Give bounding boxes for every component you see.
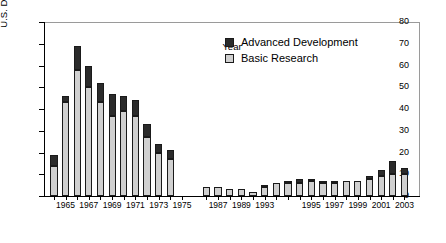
bar [343,181,350,196]
legend: Advanced DevelopmentBasic Research [225,34,358,66]
bar [203,187,210,196]
bar-segment-basic-research [354,181,361,196]
bar [378,170,385,196]
bar-segment-basic-research [97,102,104,196]
bar-segment-advanced-development [401,168,408,175]
bar [132,100,139,196]
bar-segment-advanced-development [62,96,69,103]
bar-segment-basic-research [120,111,127,196]
bar [155,144,162,196]
bar [167,150,174,196]
bar-segment-advanced-development [331,181,338,183]
x-tick [230,196,231,200]
bar-segment-basic-research [261,187,268,196]
bar-segment-basic-research [74,70,81,196]
bar [354,181,361,196]
y-tick [39,174,44,175]
stacked-bar-chart: U.S. Dollars (millions) 0102030405060708… [0,0,446,243]
bar-segment-basic-research [214,187,221,196]
bar-segment-basic-research [155,153,162,197]
bar-segment-basic-research [331,183,338,196]
bar [214,187,221,196]
x-tick [346,196,347,200]
bar-segment-basic-research [378,176,385,196]
bar-segment-basic-research [389,174,396,196]
bar [261,185,268,196]
legend-label: Advanced Development [241,36,358,48]
bar [319,181,326,196]
bar-segment-advanced-development [296,179,303,183]
x-tick [276,196,277,200]
bar-segment-basic-research [62,102,69,196]
bar [366,176,373,196]
legend-item: Basic Research [225,50,358,66]
x-tick [100,196,101,200]
x-tick-label: 1993 [250,201,280,210]
bar [50,155,57,196]
bar-segment-advanced-development [378,170,385,177]
bar-segment-advanced-development [120,96,127,111]
bar-segment-basic-research [85,87,92,196]
bar [120,96,127,196]
y-axis-title: U.S. Dollars (millions) [0,0,9,42]
x-tick [393,196,394,200]
bar-segment-advanced-development [109,94,116,116]
bar-segment-advanced-development [97,83,104,103]
x-tick [253,196,254,200]
bar-segment-basic-research [203,187,210,196]
bar [273,183,280,196]
legend-item: Advanced Development [225,34,358,50]
y-tick-label: 80 [387,17,409,26]
y-tick [39,66,44,67]
x-tick [370,196,371,200]
bar [97,83,104,196]
x-tick [206,196,207,200]
x-tick [147,196,148,200]
bar-segment-basic-research [50,166,57,196]
bar-segment-advanced-development [284,181,291,183]
x-tick [170,196,171,200]
bar [308,179,315,196]
bar-segment-basic-research [308,181,315,196]
bar [401,168,408,196]
bar [284,181,291,196]
bar-segment-advanced-development [308,179,315,181]
bar [74,46,81,196]
bar-segment-basic-research [109,116,116,196]
legend-swatch-icon [225,54,234,63]
bar [62,96,69,196]
bar [331,181,338,196]
bar-segment-basic-research [143,137,150,196]
y-tick [39,131,44,132]
bar [85,66,92,197]
y-tick-label: 30 [387,126,409,135]
y-tick-label: 50 [387,82,409,91]
bar-segment-advanced-development [261,185,268,187]
legend-swatch-icon [225,38,234,47]
y-tick-label: 40 [387,104,409,113]
y-tick [39,87,44,88]
x-tick [288,196,289,200]
bar-segment-advanced-development [155,144,162,153]
bar-segment-advanced-development [50,155,57,166]
bar-segment-basic-research [284,183,291,196]
bar-segment-advanced-development [132,100,139,115]
y-tick [39,153,44,154]
bar-segment-advanced-development [389,161,396,174]
bar-segment-advanced-development [143,124,150,137]
bar-segment-basic-research [296,183,303,196]
bar-segment-advanced-development [366,176,373,178]
bar-segment-advanced-development [167,150,174,159]
y-tick-label: 60 [387,61,409,70]
x-tick [124,196,125,200]
x-tick [300,196,301,200]
x-tick-label: 1975 [167,201,197,210]
y-tick [39,22,44,23]
legend-label: Basic Research [241,52,318,64]
bar-segment-basic-research [366,179,373,196]
x-tick [323,196,324,200]
x-tick [54,196,55,200]
bar-segment-advanced-development [319,181,326,183]
bar-segment-basic-research [132,116,139,196]
bar [296,179,303,196]
